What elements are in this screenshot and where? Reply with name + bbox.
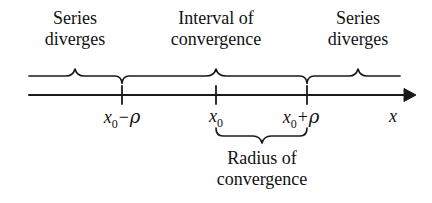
tick-label-left-endpoint: x0−ρ — [62, 106, 182, 132]
axis-arrowhead — [404, 89, 416, 102]
brace-interval-of-convergence — [122, 69, 307, 83]
tick-right-subscript: 0 — [291, 117, 297, 131]
radius-of-convergence-figure: Series diverges Interval of convergence … — [0, 0, 432, 203]
tick-center-base: x — [209, 106, 217, 126]
tick-right-base: x — [283, 107, 291, 127]
tick-right-term: ρ — [309, 106, 320, 127]
brace-right-diverges — [307, 69, 400, 83]
caption-radius-of-convergence: Radius of convergence — [197, 148, 327, 190]
brace-left-diverges — [29, 69, 122, 83]
tick-right-operator: + — [297, 107, 309, 127]
tick-label-center: x0 — [186, 106, 246, 131]
caption-line1: Radius of — [197, 148, 327, 169]
caption-line2: convergence — [197, 169, 327, 190]
tick-left-subscript: 0 — [112, 117, 118, 131]
tick-left-base: x — [104, 107, 112, 127]
tick-label-right-endpoint: x0+ρ — [241, 106, 361, 132]
tick-left-operator: − — [118, 107, 130, 127]
tick-left-term: ρ — [130, 106, 141, 127]
axis-variable-label: x — [378, 106, 408, 127]
tick-center-subscript: 0 — [217, 116, 223, 130]
